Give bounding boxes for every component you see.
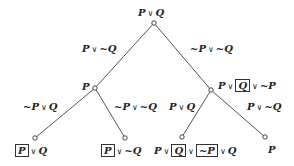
boxed-literal: P xyxy=(15,144,29,157)
or-symbol: ∨ xyxy=(164,147,170,156)
edge-label-right-rl: P∨Q xyxy=(169,101,195,114)
edge-label-root-left: P∨~Q xyxy=(82,43,116,56)
edge-label-root-right: ~P∨~Q xyxy=(190,43,233,56)
node-rr xyxy=(263,135,267,139)
edge-label-right-rr: P∨~Q xyxy=(247,101,281,114)
literal: ~Q xyxy=(124,145,141,156)
literal: ~Q xyxy=(99,43,116,54)
node-left xyxy=(93,86,97,90)
literal: Q xyxy=(186,101,195,112)
literal: P xyxy=(82,43,90,54)
edge-root-right xyxy=(154,23,211,90)
literal: ~P xyxy=(199,145,215,156)
or-symbol: ∨ xyxy=(208,45,214,54)
node-label-lr: P∨~Q xyxy=(101,144,141,158)
node-label-right: P∨Q∨~P xyxy=(218,79,276,93)
literal: Q xyxy=(174,145,183,156)
literal: Q xyxy=(155,7,164,18)
literal: Q xyxy=(38,145,47,156)
node-label-ll: P∨Q xyxy=(15,144,47,158)
or-symbol: ∨ xyxy=(188,147,194,156)
or-symbol: ∨ xyxy=(252,82,258,91)
literal: ~Q xyxy=(140,101,157,112)
or-symbol: ∨ xyxy=(132,103,138,112)
edge-label-left-ll: ~P∨Q xyxy=(23,101,57,114)
literal: Q xyxy=(238,80,247,91)
literal: P xyxy=(154,145,162,156)
or-symbol: ∨ xyxy=(148,9,154,18)
literal: ~Q xyxy=(264,101,281,112)
literal: ~P xyxy=(114,101,130,112)
node-right xyxy=(209,88,213,92)
or-symbol: ∨ xyxy=(31,147,37,156)
literal: P xyxy=(18,145,26,156)
literal: ~P xyxy=(260,80,276,91)
literal: ~P xyxy=(190,43,206,54)
literal: P xyxy=(169,101,177,112)
literal: ~Q xyxy=(216,43,233,54)
literal: P xyxy=(218,80,226,91)
literal: ~P xyxy=(23,101,39,112)
boxed-literal: Q xyxy=(235,79,250,92)
node-label-rr: P xyxy=(268,144,276,156)
literal: Q xyxy=(49,101,58,112)
literal: P xyxy=(247,101,255,112)
node-root xyxy=(152,21,156,25)
node-ll xyxy=(33,136,37,140)
literal: P xyxy=(268,144,276,155)
node-label-rl: P∨Q∨~P∨Q xyxy=(154,144,236,158)
node-label-root: P∨Q xyxy=(138,7,164,20)
literal: P xyxy=(138,7,146,18)
or-symbol: ∨ xyxy=(179,103,185,112)
boxed-literal: P xyxy=(101,144,115,157)
edge-label-left-lr: ~P∨~Q xyxy=(114,101,157,114)
or-symbol: ∨ xyxy=(92,45,98,54)
or-symbol: ∨ xyxy=(220,147,226,156)
literal: P xyxy=(104,145,112,156)
literal: Q xyxy=(228,145,237,156)
node-lr xyxy=(123,136,127,140)
or-symbol: ∨ xyxy=(228,82,234,91)
boxed-literal: ~P xyxy=(196,144,218,157)
node-label-left: P xyxy=(82,81,90,93)
literal: P xyxy=(82,81,90,92)
or-symbol: ∨ xyxy=(41,103,47,112)
or-symbol: ∨ xyxy=(257,103,263,112)
node-rl xyxy=(180,135,184,139)
boxed-literal: Q xyxy=(171,144,186,157)
or-symbol: ∨ xyxy=(117,147,123,156)
